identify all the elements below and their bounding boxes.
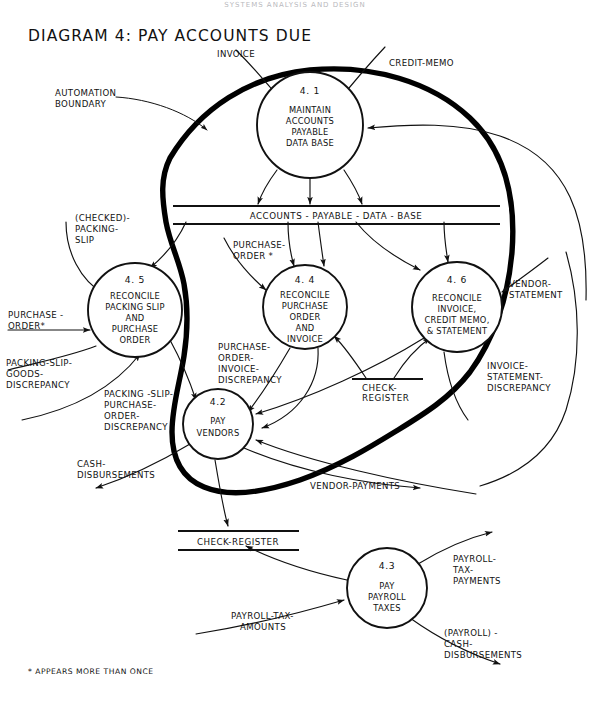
process-4-3[interactable]: 4.3 PAY PAYROLL TAXES [347, 548, 427, 628]
process-4-3-number: 4.3 [379, 560, 396, 571]
process-4-6-name-line-4: & STATEMENT [427, 326, 488, 336]
process-4-2-name-line-1: PAY [210, 416, 226, 426]
process-4-4-name-line-2: PURCHASE [282, 301, 329, 311]
flow-check-register-to-4-4 [334, 336, 366, 378]
automation-boundary-label-line2: BOUNDARY [55, 99, 106, 109]
flow-label-line-1: (CHECKED)- [75, 213, 130, 223]
process-4-5[interactable]: 4. 5 RECONCILE PACKING SLIP AND PURCHASE… [88, 263, 182, 357]
process-4-1-name-line-3: PAYABLE [292, 127, 329, 137]
flow-label-line-4: DISCREPANCY [218, 375, 282, 385]
flow-label-line-1: PAYROLL-TAX- [231, 611, 294, 621]
process-4-3-name-line-1: PAY [379, 581, 395, 591]
flow-label-line-2: ORDER* [8, 321, 46, 331]
process-4-2-number: 4.2 [210, 396, 227, 407]
flow-label-packing-slip-goods-discrepancy: PACKING-SLIP- GOODS- DISCREPANCY [6, 358, 72, 390]
flow-label-line-3: ORDER- [104, 411, 140, 421]
flow-label-line-3: DISCREPANCY [487, 383, 551, 393]
diagram-canvas: SYSTEMS ANALYSIS AND DESIGN DIAGRAM 4: P… [0, 0, 591, 703]
process-4-1-name-line-1: MAINTAIN [289, 105, 331, 115]
flow-label-line-3: SLIP [75, 235, 94, 245]
process-4-6[interactable]: 4. 6 RECONCILE INVOICE, CREDIT MEMO, & S… [412, 262, 502, 352]
flow-label-line-1: INVOICE- [487, 361, 528, 371]
process-4-5-name-line-4: PURCHASE [112, 324, 159, 334]
process-4-4-number: 4. 4 [295, 274, 315, 285]
data-store-label-line1: CHECK- [362, 383, 397, 393]
flow-label-line-2: ORDER * [233, 251, 274, 261]
flow-store-to-4-6-a [356, 222, 420, 270]
flow-label-line-1: PAYROLL- [453, 554, 496, 564]
process-4-3-name-line-2: PAYROLL [368, 592, 406, 602]
flow-label-cash-disbursements: CASH- DISBURSEMENTS [77, 459, 155, 480]
process-4-1-name-line-4: DATA BASE [286, 138, 334, 148]
process-4-6-name-line-2: INVOICE, [438, 304, 477, 314]
flow-label-line-2: TAX- [452, 565, 473, 575]
process-4-4-name-line-5: INVOICE [287, 334, 323, 344]
flow-4-1-to-store-a [258, 170, 277, 204]
flow-4-4-to-4-2-secondary [262, 348, 318, 428]
process-4-5-name-line-1: RECONCILE [110, 291, 160, 301]
flow-check-register-to-4-6 [394, 338, 430, 378]
process-4-5-name-line-5: ORDER [120, 335, 151, 345]
flow-label-line-2: DISBURSEMENTS [77, 470, 155, 480]
dataflow-diagram: SYSTEMS ANALYSIS AND DESIGN DIAGRAM 4: P… [0, 0, 591, 703]
process-4-5-number: 4. 5 [125, 274, 145, 285]
flow-label-line-2: ORDER- [218, 353, 254, 363]
flow-label-line-1: PACKING-SLIP- [6, 358, 72, 368]
process-4-2-name-line-2: VENDORS [197, 428, 240, 438]
process-4-1-name-line-2: ACCOUNTS [286, 116, 334, 126]
flow-label-line-4: DISCREPANCY [104, 422, 168, 432]
flow-label-line-1: CASH- [77, 459, 106, 469]
process-4-1-number: 4. 1 [300, 85, 320, 96]
page-title: DIAGRAM 4: PAY ACCOUNTS DUE [28, 27, 312, 45]
flow-label-vendor-statement: VENDOR- STATEMENT [509, 279, 563, 300]
flow-label-line-2: STATEMENT- [487, 372, 543, 382]
flow-label-line-3: DISCREPANCY [6, 380, 70, 390]
footnote: * APPEARS MORE THAN ONCE [28, 667, 153, 676]
flow-label-line-1: PURCHASE- [233, 240, 286, 250]
data-store-accounts-payable-data-base: ACCOUNTS - PAYABLE - DATA - BASE [173, 206, 500, 224]
flow-label-purchase-order-invoice-discrepancy: PURCHASE- ORDER- INVOICE- DISCREPANCY [218, 342, 282, 385]
flow-label-line-2: CASH- [444, 639, 473, 649]
flow-label-line-1: PURCHASE- [218, 342, 271, 352]
flow-label-invoice: INVOICE [217, 49, 255, 59]
flow-label-payroll-cash-disbursements: (PAYROLL) - CASH- DISBURSEMENTS [444, 628, 522, 660]
flow-label-checked-packing-slip: (CHECKED)- PACKING- SLIP [75, 213, 130, 245]
process-4-6-number: 4. 6 [447, 274, 467, 285]
flow-label-purchase-order-4-4: PURCHASE- ORDER * [233, 240, 286, 261]
flow-label-line-1: VENDOR- [509, 279, 551, 289]
flow-label-line-2: AMOUNTS [240, 622, 286, 632]
process-4-2[interactable]: 4.2 PAY VENDORS [183, 389, 253, 459]
flow-label-line-2: STATEMENT [509, 290, 563, 300]
flow-4-1-to-store-c [344, 170, 362, 204]
flow-label-line-2: GOODS- [6, 369, 43, 379]
process-4-5-name-line-3: AND [125, 313, 144, 323]
flow-label-invoice-statement-discrepancy: INVOICE- STATEMENT- DISCREPANCY [487, 361, 551, 393]
process-4-4-name-line-3: ORDER [290, 312, 321, 322]
flow-label-line-2: PACKING- [75, 224, 119, 234]
flow-label-line-1: PURCHASE - [8, 310, 64, 320]
flow-store-to-4-4-b [318, 222, 324, 266]
flow-label-credit-memo: CREDIT-MEMO [389, 58, 454, 68]
process-4-4-name-line-4: AND [295, 323, 314, 333]
process-4-1[interactable]: 4. 1 MAINTAIN ACCOUNTS PAYABLE DATA BASE [257, 72, 363, 178]
flow-label-line-3: DISBURSEMENTS [444, 650, 522, 660]
flow-label-packing-slip-purchase-order-discrepancy: PACKING -SLIP- PURCHASE- ORDER- DISCREPA… [104, 389, 173, 432]
flow-store-to-4-4-a [288, 222, 294, 266]
data-store-label-line2: REGISTER [362, 393, 409, 403]
process-4-6-name-line-1: RECONCILE [432, 293, 482, 303]
process-4-4-name-line-1: RECONCILE [280, 290, 330, 300]
data-store-label: ACCOUNTS - PAYABLE - DATA - BASE [250, 211, 423, 221]
flow-label-payroll-tax-amounts: PAYROLL-TAX- AMOUNTS [231, 611, 294, 632]
data-store-check-register-upper: CHECK- REGISTER [352, 379, 423, 403]
flow-label-line-1: PACKING -SLIP- [104, 389, 173, 399]
page-header: SYSTEMS ANALYSIS AND DESIGN [224, 1, 365, 9]
flow-4-3-to-check-register [246, 546, 347, 580]
process-4-4[interactable]: 4. 4 RECONCILE PURCHASE ORDER AND INVOIC… [263, 265, 347, 349]
flow-label-vendor-payments: VENDOR-PAYMENTS [310, 481, 400, 491]
flow-label-line-2: PURCHASE- [104, 400, 157, 410]
flow-store-to-4-6-b [444, 222, 448, 262]
data-store-label: CHECK-REGISTER [197, 537, 279, 547]
flow-label-purchase-order-4-5: PURCHASE - ORDER* [8, 310, 64, 331]
flow-label-line-3: INVOICE- [218, 364, 259, 374]
process-4-5-name-line-2: PACKING SLIP [105, 302, 164, 312]
